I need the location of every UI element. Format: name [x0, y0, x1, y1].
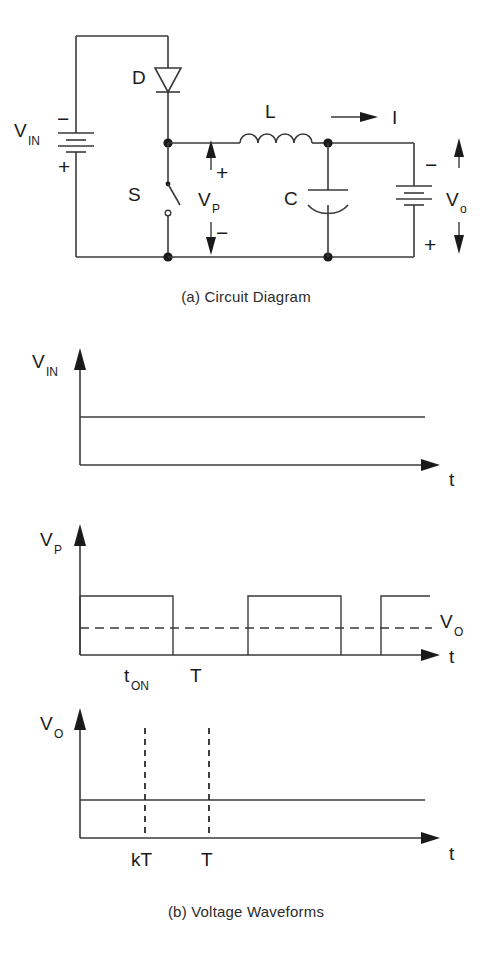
- vp-down-arrow-head: [206, 237, 216, 255]
- caption-circuit-diagram: (a) Circuit Diagram: [0, 288, 492, 305]
- output-minus-sign: −: [425, 153, 437, 176]
- switch-blade: [168, 184, 180, 205]
- diode-symbol: [155, 68, 181, 92]
- chart2-y-axis-arrow: [74, 524, 86, 546]
- chart3-y-axis-label: V: [40, 713, 53, 734]
- chart3-xtick-period: T: [201, 849, 213, 870]
- node-voltage-label: V: [198, 189, 211, 210]
- output-voltage-annotation: V o: [446, 138, 467, 254]
- figure-canvas: V IN − + D S: [0, 0, 492, 961]
- chart3-x-axis-arrow: [421, 832, 440, 844]
- capacitor-label: C: [284, 188, 298, 209]
- chart2-x-axis-label: t: [449, 646, 455, 667]
- chart3-y-axis-label-subscript: O: [54, 727, 63, 741]
- source-label: V: [14, 120, 27, 141]
- chart-output-voltage: V O t kT T: [40, 708, 455, 870]
- vo-down-arrow-head: [454, 235, 464, 254]
- inductor-coils-icon: [240, 134, 312, 143]
- chart2-xtick-ton: t: [124, 665, 130, 686]
- diode-triangle-icon: [155, 68, 181, 92]
- source-plus-sign: +: [58, 155, 70, 178]
- dc-source-symbol: [58, 133, 94, 152]
- diode-label: D: [132, 67, 146, 88]
- chart2-average-label-subscript: O: [454, 625, 463, 639]
- chart2-xtick-ton-subscript: ON: [131, 679, 149, 693]
- node-voltage-annotation: + − V P: [198, 140, 228, 255]
- chart-switch-node-voltage: V O V P t t ON T: [40, 524, 463, 693]
- chart1-y-axis-label: V: [32, 351, 45, 372]
- output-voltage-label-subscript: o: [460, 202, 467, 216]
- inductor-symbol: [240, 134, 312, 143]
- chart1-x-axis-label: t: [449, 469, 455, 490]
- chart-input-voltage: V IN t: [32, 348, 455, 490]
- current-annotation: I: [331, 107, 397, 128]
- output-plus-sign: +: [424, 233, 436, 256]
- current-arrow-head: [360, 112, 378, 122]
- chart2-pulse-2: [248, 596, 341, 655]
- chart2-x-axis-arrow: [421, 649, 440, 661]
- chart1-y-axis-label-subscript: IN: [46, 365, 58, 379]
- chart1-x-axis-arrow: [421, 459, 440, 471]
- chart2-average-label: V: [440, 611, 453, 632]
- chart2-xtick-period: T: [190, 665, 202, 686]
- chart2-y-axis-label: V: [40, 529, 53, 550]
- switch-bottom-terminal: [165, 210, 171, 216]
- chart3-x-axis-label: t: [449, 843, 455, 864]
- output-voltage-label: V: [446, 189, 459, 210]
- chart1-y-axis-arrow: [74, 348, 86, 370]
- chart2-pulse-1: [80, 596, 173, 655]
- node-voltage-label-subscript: P: [212, 202, 220, 216]
- chart3-xtick-kt: kT: [131, 849, 153, 870]
- chart2-pulse-3: [381, 596, 430, 655]
- circuit-diagram: V IN − + D S: [14, 36, 467, 262]
- chart3-y-axis-arrow: [74, 708, 86, 730]
- inductor-label: L: [265, 101, 276, 122]
- caption-voltage-waveforms: (b) Voltage Waveforms: [0, 903, 492, 920]
- vp-plus-sign: +: [216, 161, 228, 184]
- chart2-y-axis-label-subscript: P: [54, 543, 62, 557]
- vp-minus-sign: −: [216, 221, 228, 244]
- vo-up-arrow-head: [454, 138, 464, 157]
- switch-label: S: [128, 184, 141, 205]
- load-source-symbol: [396, 186, 432, 205]
- current-label: I: [392, 107, 397, 128]
- source-minus-sign: −: [57, 107, 69, 130]
- source-label-subscript: IN: [28, 134, 40, 148]
- buck-converter-figure: V IN − + D S: [0, 0, 492, 961]
